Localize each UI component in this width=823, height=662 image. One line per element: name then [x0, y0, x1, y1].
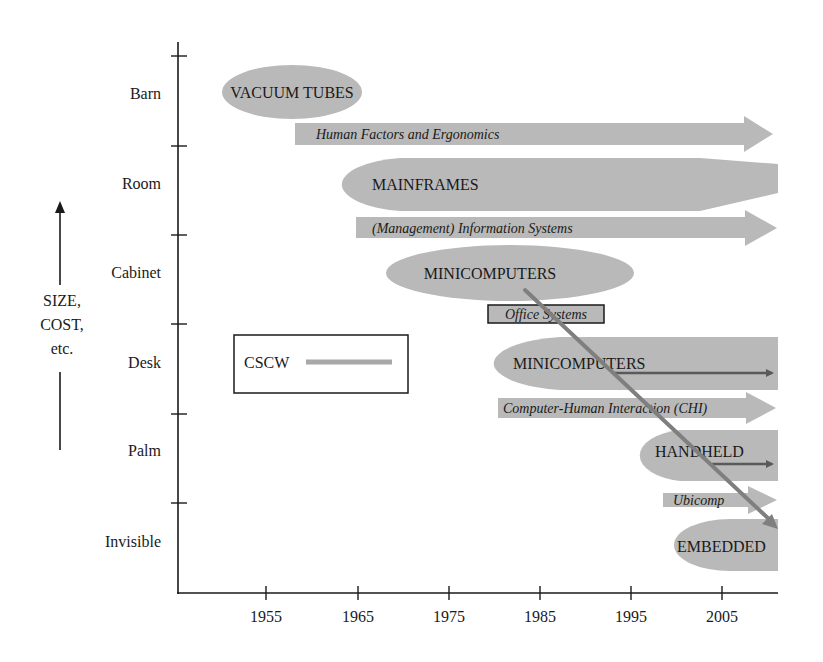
row-label-palm: Palm — [128, 442, 161, 459]
row-label-cabinet: Cabinet — [111, 264, 161, 281]
x-tick-label-1985: 1985 — [524, 608, 556, 625]
platform-label-minicomputers-desk: MINICOMPUTERS — [513, 355, 645, 372]
platform-label-mainframes: MAINFRAMES — [372, 176, 479, 193]
x-tick-label-1995: 1995 — [615, 608, 647, 625]
x-tick-label-2005: 2005 — [706, 608, 738, 625]
row-label-invisible: Invisible — [105, 533, 161, 550]
size-axis-title-line-2: COST, — [40, 316, 84, 333]
row-label-barn: Barn — [130, 85, 161, 102]
field-label-chi: Computer-Human Interaction (CHI) — [503, 401, 708, 417]
platform-label-embedded: EMBEDDED — [677, 538, 766, 555]
x-tick-label-1955: 1955 — [250, 608, 282, 625]
field-label-information-systems: (Management) Information Systems — [372, 221, 573, 237]
hci-history-diagram: SIZE, COST, etc. Barn Room Cabinet Desk … — [0, 0, 823, 662]
field-label-ubicomp: Ubicomp — [673, 493, 724, 508]
arrow-up-icon — [55, 201, 65, 213]
size-axis-title-line-3: etc. — [51, 340, 74, 357]
field-label-human-factors: Human Factors and Ergonomics — [315, 127, 500, 142]
x-tick-label-1965: 1965 — [342, 608, 374, 625]
platform-label-vacuum-tubes: VACUUM TUBES — [230, 84, 353, 101]
x-tick-label-1975: 1975 — [433, 608, 465, 625]
platform-label-minicomputers-cabinet: MINICOMPUTERS — [424, 265, 556, 282]
y-axis-ticks — [171, 56, 187, 503]
size-axis-title-line-1: SIZE, — [43, 292, 81, 309]
row-label-room: Room — [122, 175, 162, 192]
legend-label-cscw: CSCW — [244, 354, 290, 371]
row-label-desk: Desk — [128, 354, 161, 371]
